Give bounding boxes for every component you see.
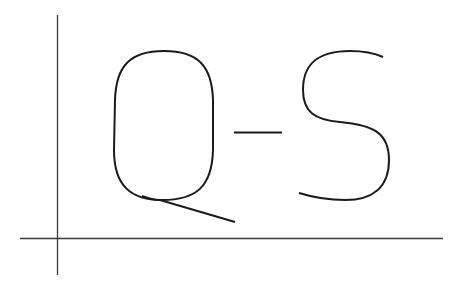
letter-q-body	[114, 51, 213, 200]
letter-s	[299, 51, 389, 200]
qs-drawing	[0, 0, 467, 282]
letter-q-tail	[142, 196, 235, 222]
